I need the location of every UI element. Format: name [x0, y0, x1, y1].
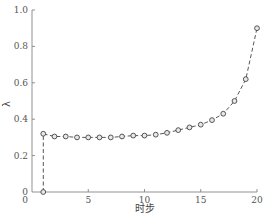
- data-point-marker: [41, 190, 46, 195]
- data-point-marker: [108, 135, 113, 140]
- data-point-marker: [86, 135, 91, 140]
- y-tick-label: 0.6: [14, 78, 29, 88]
- data-point-marker: [221, 111, 226, 116]
- data-point-marker: [232, 99, 237, 104]
- line-chart: 00.20.40.60.81.005101520 时步 λ: [0, 0, 269, 220]
- y-tick-label: 1.0: [14, 5, 29, 15]
- data-point-marker: [210, 118, 215, 123]
- data-point-marker: [52, 134, 57, 139]
- data-point-marker: [97, 135, 102, 140]
- data-point-marker: [131, 133, 136, 138]
- y-tick-label: 0.2: [14, 151, 28, 161]
- data-point-marker: [243, 77, 248, 82]
- data-series: [41, 26, 260, 195]
- axes: [32, 10, 257, 192]
- x-axis-label: 时步: [135, 203, 155, 214]
- series-line: [43, 28, 257, 192]
- data-point-marker: [75, 135, 80, 140]
- x-tick-label: 20: [251, 195, 263, 205]
- data-point-marker: [198, 122, 203, 127]
- y-axis-label: λ: [1, 101, 12, 107]
- data-point-marker: [120, 134, 125, 139]
- x-tick-label: 0: [22, 195, 28, 205]
- data-point-marker: [41, 131, 46, 136]
- tick-labels: 00.20.40.60.81.005101520: [14, 5, 263, 205]
- data-point-marker: [142, 133, 147, 138]
- data-point-marker: [153, 132, 158, 137]
- y-tick-label: 0.8: [14, 41, 29, 51]
- data-point-marker: [255, 26, 260, 31]
- y-tick-label: 0.4: [14, 114, 29, 124]
- data-point-marker: [176, 128, 181, 133]
- data-point-marker: [63, 134, 68, 139]
- data-point-marker: [187, 125, 192, 130]
- x-tick-label: 15: [195, 195, 207, 205]
- x-tick-label: 5: [85, 195, 91, 205]
- data-point-marker: [165, 130, 170, 135]
